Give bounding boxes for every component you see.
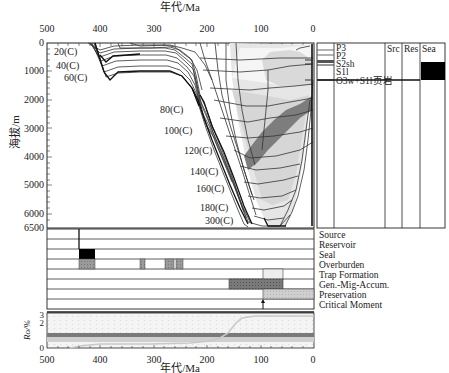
ytick-6500: 6500 xyxy=(24,222,44,233)
btick-200: 200 xyxy=(200,354,215,365)
isotherm-80: 80(C) xyxy=(160,104,183,116)
isotherm-20: 20(C) xyxy=(54,46,77,58)
ro-tick-2: 2 xyxy=(40,318,45,328)
events-chart xyxy=(47,229,314,309)
unit-o3w-s1l-shale: O3w+S1l页岩 xyxy=(336,75,393,86)
isotherm-100: 100(C) xyxy=(164,125,192,137)
y-ticks: 0 1000 2000 3000 4000 5000 6000 6500 xyxy=(24,37,44,233)
ytick-1000: 1000 xyxy=(24,65,44,76)
isotherm-180: 180(C) xyxy=(200,202,228,214)
ytick-4000: 4000 xyxy=(24,151,44,162)
ytick-5000: 5000 xyxy=(24,179,44,190)
tick-300: 300 xyxy=(147,23,162,34)
tick-400: 400 xyxy=(93,23,108,34)
row-critical-moment: Critical Moment xyxy=(319,300,382,310)
isotherm-40: 40(C) xyxy=(56,60,79,72)
event-row-labels: Source Reservoir Seal Overburden Trap Fo… xyxy=(319,230,389,310)
ytick-6000: 6000 xyxy=(24,208,44,219)
tick-0: 0 xyxy=(311,23,316,34)
row-overburden: Overburden xyxy=(319,260,365,270)
bottom-axis-title: 年代/Ma xyxy=(160,361,200,373)
isotherm-120: 120(C) xyxy=(184,145,212,157)
tick-100: 100 xyxy=(254,23,269,34)
isotherm-60: 60(C) xyxy=(64,72,87,84)
ytick-2000: 2000 xyxy=(24,94,44,105)
btick-400: 400 xyxy=(93,354,108,365)
row-seal: Seal xyxy=(319,250,336,260)
stratigraphy-column: P3 P2 S2sh S1l O3w+S1l页岩 Src Res Sea xyxy=(317,43,445,228)
btick-0: 0 xyxy=(311,354,316,365)
row-source: Source xyxy=(319,230,345,240)
ytick-3000: 3000 xyxy=(24,123,44,134)
tick-200: 200 xyxy=(200,23,215,34)
row-preservation: Preservation xyxy=(319,290,367,300)
header-res: Res xyxy=(404,44,419,54)
isotherm-140: 140(C) xyxy=(190,166,218,178)
row-gen-mig-accum: Gen.-Mig-Accum. xyxy=(319,280,389,290)
row-trap-formation: Trap Formation xyxy=(319,270,379,280)
header-src: Src xyxy=(387,44,400,54)
header-sea: Sea xyxy=(422,44,437,54)
btick-100: 100 xyxy=(254,354,269,365)
seal-marker xyxy=(421,62,445,80)
row-reservoir: Reservoir xyxy=(319,240,357,250)
depth-axis-title: 海拔/m xyxy=(8,115,21,149)
burial-history-chart: 年代/Ma 500 400 300 200 100 0 海拔/m 0 1000 … xyxy=(0,0,449,373)
btick-500: 500 xyxy=(40,354,55,365)
top-x-ticks: 500 400 300 200 100 0 xyxy=(40,23,316,34)
tick-500: 500 xyxy=(40,23,55,34)
ro-axis-title: Ro/% xyxy=(22,320,32,341)
ytick-0: 0 xyxy=(39,37,44,48)
isotherm-160: 160(C) xyxy=(196,183,224,195)
isotherm-300: 300(C) xyxy=(205,215,233,227)
top-axis-title: 年代/Ma xyxy=(160,0,200,13)
ro-plot: 3 2 0 Ro/% xyxy=(22,310,314,353)
ro-tick-0: 0 xyxy=(40,343,45,353)
